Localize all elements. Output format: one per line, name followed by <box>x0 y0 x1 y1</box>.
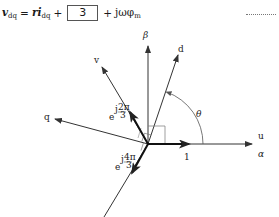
theta-label: θ <box>196 109 202 119</box>
phasor-2pi3-label: e j 2π 3 <box>109 102 130 122</box>
svg-text:e: e <box>115 162 120 172</box>
v-label: v <box>93 55 100 65</box>
svg-text:3: 3 <box>120 110 126 120</box>
d-label: d <box>178 44 184 54</box>
alpha-label: α <box>258 149 264 159</box>
right-angle-marker-dq <box>141 143 144 151</box>
vector-diagram: β d v q u α θ 1 e j 2π 3 e j 4π 3 <box>0 0 279 217</box>
u-label: u <box>258 131 264 141</box>
phasor-2pi3-vector <box>130 112 148 144</box>
d-axis <box>148 55 178 144</box>
q-axis <box>55 119 148 144</box>
beta-label: β <box>142 30 148 40</box>
svg-text:3: 3 <box>126 160 132 170</box>
svg-text:e: e <box>109 112 114 122</box>
unit-vector-label: 1 <box>184 152 190 162</box>
q-label: q <box>44 112 50 122</box>
